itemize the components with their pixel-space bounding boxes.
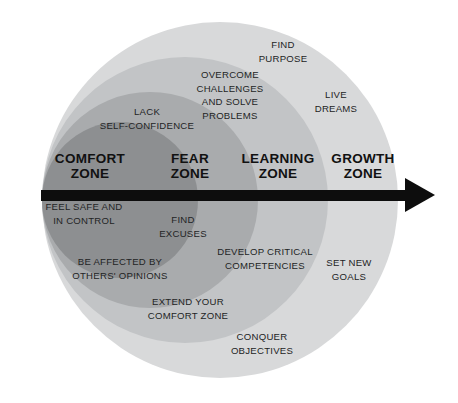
zone-label-learning: LEARNING ZONE — [232, 152, 324, 181]
zone-label-growth-line2: ZONE — [324, 167, 402, 182]
item-be-affected-by-others-opinions: BE AFFECTED BY OTHERS' OPINIONS — [56, 255, 184, 282]
item-conquer-line1: CONQUER — [222, 330, 302, 344]
zone-label-learning-line1: LEARNING — [232, 152, 324, 167]
zone-label-growth: GROWTH ZONE — [324, 152, 402, 181]
item-lack-line2: SELF-CONFIDENCE — [98, 119, 196, 133]
zone-label-comfort-line2: ZONE — [22, 167, 158, 182]
item-lack-line1: LACK — [98, 105, 196, 119]
zone-diagram: COMFORT ZONE FEAR ZONE LEARNING ZONE GRO… — [0, 0, 458, 403]
item-conquer-line2: OBJECTIVES — [222, 344, 302, 358]
item-affected-line2: OTHERS' OPINIONS — [56, 269, 184, 283]
item-find-excuses-line1: FIND — [148, 213, 218, 227]
item-find-purpose-line2: PURPOSE — [243, 52, 323, 66]
zone-label-fear: FEAR ZONE — [152, 152, 228, 181]
zone-label-learning-line2: ZONE — [232, 167, 324, 182]
item-live-dreams: LIVE DREAMS — [300, 88, 372, 115]
item-develop-critical-competencies: DEVELOP CRITICAL COMPETENCIES — [212, 245, 318, 272]
item-extend-line2: COMFORT ZONE — [134, 309, 242, 323]
item-feel-safe-line1: FEEL SAFE AND — [33, 200, 135, 214]
item-live-dreams-line1: LIVE — [300, 88, 372, 102]
item-set-new-goals: SET NEW GOALS — [312, 256, 386, 283]
item-set-new-goals-line1: SET NEW — [312, 256, 386, 270]
item-find-purpose-line1: FIND — [243, 38, 323, 52]
item-find-purpose: FIND PURPOSE — [243, 38, 323, 65]
item-overcome-challenges: OVERCOME CHALLENGES AND SOLVE PROBLEMS — [182, 68, 278, 122]
zone-label-comfort: COMFORT ZONE — [22, 152, 158, 181]
item-feel-safe-line2: IN CONTROL — [33, 214, 135, 228]
item-develop-line2: COMPETENCIES — [212, 259, 318, 273]
item-overcome-line4: PROBLEMS — [182, 109, 278, 123]
item-overcome-line3: AND SOLVE — [182, 95, 278, 109]
item-develop-line1: DEVELOP CRITICAL — [212, 245, 318, 259]
item-live-dreams-line2: DREAMS — [300, 102, 372, 116]
item-conquer-objectives: CONQUER OBJECTIVES — [222, 330, 302, 357]
item-find-excuses: FIND EXCUSES — [148, 213, 218, 240]
zone-label-growth-line1: GROWTH — [324, 152, 402, 167]
item-lack-self-confidence: LACK SELF-CONFIDENCE — [98, 105, 196, 132]
item-extend-line1: EXTEND YOUR — [134, 295, 242, 309]
item-overcome-line2: CHALLENGES — [182, 82, 278, 96]
item-find-excuses-line2: EXCUSES — [148, 227, 218, 241]
item-set-new-goals-line2: GOALS — [312, 270, 386, 284]
progress-arrow-head-icon — [405, 178, 435, 212]
item-affected-line1: BE AFFECTED BY — [56, 255, 184, 269]
zone-label-comfort-line1: COMFORT — [22, 152, 158, 167]
item-extend-your-comfort-zone: EXTEND YOUR COMFORT ZONE — [134, 295, 242, 322]
item-feel-safe-in-control: FEEL SAFE AND IN CONTROL — [33, 200, 135, 227]
zone-label-fear-line2: ZONE — [152, 167, 228, 182]
item-overcome-line1: OVERCOME — [182, 68, 278, 82]
zone-label-fear-line1: FEAR — [152, 152, 228, 167]
